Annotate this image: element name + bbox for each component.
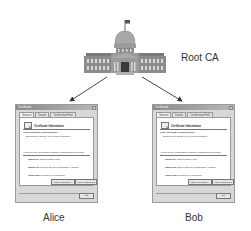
valid-dates: Valid from 1/01/2009 to 1/01/2010 [165,174,202,177]
issuer-statement-button[interactable]: Issuer Statement [75,179,97,185]
bob-certificate-dialog: Certificate General Details Certificatio… [152,104,235,203]
purpose-text: Ensures the identity of a remote compute… [163,135,207,138]
bob-label: Bob [185,212,203,223]
general-panel: Certificate Information This certificate… [19,117,94,186]
install-certificate-button[interactable]: Install Certificate... [51,179,75,185]
purpose-text: Ensures the identity of a remote compute… [26,135,70,138]
alice-label: Alice [43,212,65,223]
alice-certificate-dialog: Certificate General Details Certificatio… [15,104,98,203]
issued-by: Issued by: Secure Server Certification A… [165,166,216,169]
reference-note: * Refer to the certification authority's… [160,151,221,154]
issuer-statement-button[interactable]: Issuer Statement [212,179,234,185]
general-panel: Certificate Information This certificate… [156,117,231,186]
issued-by: Issued by: Secure Server Certification A… [28,166,79,169]
close-icon[interactable] [92,106,96,110]
dialog-titlebar: Certificate [16,105,97,110]
certificate-icon [161,122,169,129]
divider [23,155,90,156]
reference-note: * Refer to the certification authority's… [23,151,84,154]
divider [160,155,227,156]
dialog-titlebar: Certificate [153,105,234,110]
issued-to: Issued to: www.example.com [165,158,197,161]
ok-button[interactable]: OK [216,193,231,199]
close-icon[interactable] [229,106,233,110]
ok-button[interactable]: OK [79,193,94,199]
arrow-to-bob [142,77,182,101]
divider [23,129,90,130]
cert-heading: Certificate Information [171,124,201,128]
certificate-icon [24,122,32,129]
issued-to: Issued to: www.example.com [28,158,60,161]
dialog-title: Certificate [18,105,32,110]
arrow-to-alice [70,77,107,101]
valid-dates: Valid from 1/01/2009 to 1/01/2010 [28,174,65,177]
dialog-title: Certificate [155,105,169,110]
divider [160,129,227,130]
install-certificate-button[interactable]: Install Certificate... [188,179,212,185]
cert-heading: Certificate Information [34,124,64,128]
